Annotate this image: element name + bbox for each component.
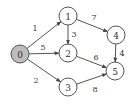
- node-label: 1: [65, 12, 71, 22]
- edge-weight-label: 2: [33, 76, 38, 85]
- edge-arrow: [27, 59, 60, 82]
- edge-weight-label: 6: [93, 53, 98, 62]
- node-label: 0: [17, 50, 23, 60]
- edge-0-2: 5: [29, 43, 59, 54]
- node-0: 0: [11, 45, 29, 63]
- node-2: 2: [59, 44, 77, 62]
- node-label: 4: [113, 31, 119, 41]
- node-5: 5: [106, 62, 124, 80]
- edge-weight-label: 8: [92, 85, 97, 94]
- node-label: 5: [112, 67, 118, 77]
- edge-1-4: 7: [76, 13, 107, 32]
- edge-1-2: 3: [68, 25, 77, 44]
- edge-weight-label: 3: [71, 30, 76, 39]
- node-4: 4: [107, 26, 125, 44]
- edge-arrow: [29, 53, 59, 54]
- edge-4-5: 4: [115, 44, 124, 62]
- edge-3-5: 8: [77, 74, 107, 94]
- node-label: 2: [65, 49, 71, 59]
- edge-arrow: [77, 74, 107, 84]
- node-1: 1: [59, 7, 77, 25]
- nodes-layer: 012345: [11, 7, 125, 96]
- node-3: 3: [59, 78, 77, 96]
- edge-weight-label: 5: [40, 43, 45, 52]
- edge-arrow: [76, 56, 106, 68]
- edge-0-3: 2: [27, 59, 60, 84]
- node-label: 3: [65, 83, 71, 93]
- edge-2-5: 6: [76, 53, 106, 68]
- edge-weight-label: 7: [91, 13, 96, 22]
- edge-weight-label: 4: [119, 49, 124, 58]
- edge-arrow: [115, 44, 116, 62]
- edge-weight-label: 1: [32, 24, 37, 33]
- graph-diagram: 15237648 012345: [0, 0, 133, 106]
